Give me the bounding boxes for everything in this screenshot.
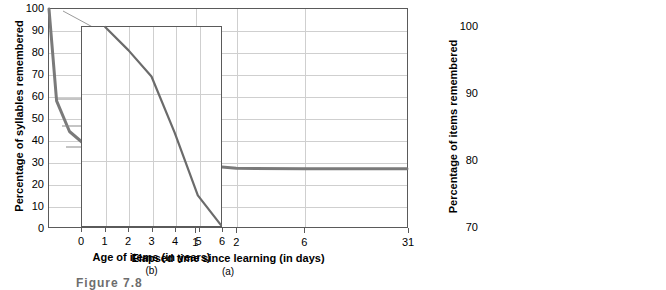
y-axis-tick-label: 70 (32, 69, 44, 80)
x-axis-tick-mark (236, 228, 237, 233)
plot-area-b (81, 26, 222, 227)
x-axis-tick-mark (222, 227, 223, 232)
y-axis-tick-label: 50 (32, 113, 44, 124)
x-axis-tick-label: 4 (172, 236, 178, 247)
x-axis-tick-label: 31 (402, 237, 414, 248)
x-axis-tick-mark (128, 227, 129, 232)
y-axis-tick-label: 70 (466, 222, 478, 233)
y-axis-tick-label: 90 (32, 25, 44, 36)
x-axis-tick-label: 6 (219, 236, 225, 247)
data-series-line (105, 27, 221, 225)
panel-letter-b: (b) (81, 265, 222, 276)
y-axis-tick-label: 60 (32, 91, 44, 102)
x-axis-tick-label: 2 (233, 237, 239, 248)
x-axis-tick-label: 1 (101, 236, 107, 247)
x-axis-tick-mark (408, 228, 409, 233)
y-axis-tick-label: 80 (32, 47, 44, 58)
x-axis-ticks-b: 0123456 (81, 232, 222, 246)
x-axis-tick-mark (304, 228, 305, 233)
y-axis-tick-label: 30 (32, 157, 44, 168)
forgetting-curve-line-b (82, 27, 221, 225)
y-axis-title-b: Percentage of items remembered (447, 26, 459, 227)
x-axis-tick-label: 5 (195, 236, 201, 247)
y-axis-tick-label: 40 (32, 135, 44, 146)
y-axis-title-a: Percentage of syllables remembered (13, 6, 25, 226)
y-axis-tick-label: 100 (26, 3, 44, 14)
y-axis-tick-label: 80 (466, 155, 478, 166)
x-axis-tick-mark (152, 227, 153, 232)
x-axis-tick-mark (105, 227, 106, 232)
y-axis-tick-label: 10 (32, 201, 44, 212)
x-axis-tick-mark (81, 227, 82, 232)
y-axis-tick-label: 90 (466, 88, 478, 99)
y-axis-tick-label: 0 (38, 223, 44, 234)
x-axis-tick-label: 6 (301, 237, 307, 248)
x-axis-title-b: Age of items (in years) (81, 251, 222, 263)
x-axis-tick-mark (199, 227, 200, 232)
y-axis-tick-label: 20 (32, 179, 44, 190)
x-axis-tick-mark (175, 227, 176, 232)
x-axis-tick-label: 2 (125, 236, 131, 247)
y-axis-tick-label: 100 (460, 21, 478, 32)
figure-caption: Figure 7.8 (76, 276, 143, 290)
x-axis-tick-label: 3 (148, 236, 154, 247)
x-axis-tick-label: 0 (78, 236, 84, 247)
